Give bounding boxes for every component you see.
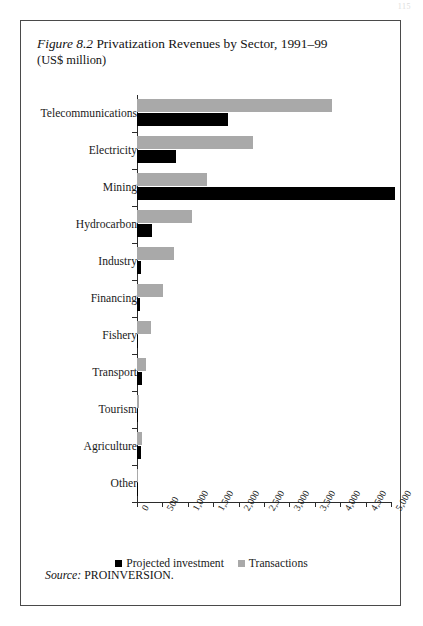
value-tick-label: 5,000	[393, 488, 413, 512]
value-tick	[213, 502, 214, 507]
bar-projected-investment-financing	[137, 298, 140, 311]
category-label-electricity: Electricity	[21, 145, 137, 157]
value-tick	[315, 502, 316, 507]
bar-transactions-other	[137, 469, 138, 482]
category-label-telecommunications: Telecommunications	[21, 108, 137, 120]
category-tick	[132, 169, 137, 170]
value-tick	[162, 502, 163, 507]
category-tick	[132, 465, 137, 466]
value-axis-tick-labels: 05001,0001,5002,0002,5003,0003,5004,0004…	[137, 507, 401, 553]
figure-frame: Figure 8.2 Privatization Revenues by Sec…	[20, 20, 401, 606]
bar-projected-investment-telecommunications	[137, 113, 228, 126]
bar-projected-investment-hydrocarbon	[137, 224, 152, 237]
category-tick	[132, 391, 137, 392]
bar-transactions-electricity	[137, 136, 253, 149]
source-note: Source: PROINVERSION.	[45, 568, 174, 583]
source-keyword: Source:	[45, 568, 81, 582]
bar-projected-investment-tourism	[137, 409, 138, 422]
category-label-hydrocarbon: Hydrocarbon	[21, 219, 137, 231]
bar-projected-investment-agriculture	[137, 446, 141, 459]
category-label-fishery: Fishery	[21, 330, 137, 342]
category-tick	[132, 317, 137, 318]
bar-transactions-financing	[137, 284, 163, 297]
bar-projected-investment-electricity	[137, 150, 176, 163]
category-tick	[132, 280, 137, 281]
legend-swatch-icon	[115, 560, 122, 567]
page-number: 115	[398, 2, 411, 11]
bar-projected-investment-transport	[137, 372, 142, 385]
category-tick	[132, 206, 137, 207]
bar-transactions-fishery	[137, 321, 151, 334]
bar-transactions-tourism	[137, 395, 139, 408]
value-tick-label: 0	[139, 503, 151, 513]
figure-title: Privatization Revenues by Sector, 1991–9…	[96, 36, 327, 51]
figure-caption: Figure 8.2 Privatization Revenues by Sec…	[37, 35, 385, 69]
category-tick	[132, 132, 137, 133]
bar-projected-investment-industry	[137, 261, 141, 274]
value-tick	[188, 502, 189, 507]
figure-label: Figure 8.2	[37, 36, 93, 51]
chart-plot-area: TelecommunicationsElectricityMiningHydro…	[21, 95, 402, 525]
bars-layer	[137, 95, 391, 502]
legend-swatch-icon	[238, 560, 245, 567]
legend-item-transactions: Transactions	[238, 557, 308, 570]
bar-projected-investment-mining	[137, 187, 395, 200]
bar-projected-investment-other	[137, 483, 138, 496]
bar-transactions-agriculture	[137, 432, 142, 445]
category-label-agriculture: Agriculture	[21, 441, 137, 453]
value-tick	[264, 502, 265, 507]
category-tick	[132, 354, 137, 355]
value-tick	[391, 502, 392, 507]
bar-transactions-mining	[137, 173, 207, 186]
value-tick	[366, 502, 367, 507]
value-tick	[289, 502, 290, 507]
value-tick	[340, 502, 341, 507]
bar-transactions-industry	[137, 247, 174, 260]
bar-transactions-hydrocarbon	[137, 210, 192, 223]
category-label-other: Other	[21, 478, 137, 490]
bar-transactions-telecommunications	[137, 99, 332, 112]
category-label-financing: Financing	[21, 293, 137, 305]
source-text: PROINVERSION.	[84, 568, 173, 582]
value-tick	[239, 502, 240, 507]
category-label-transport: Transport	[21, 367, 137, 379]
category-label-mining: Mining	[21, 182, 137, 194]
category-label-tourism: Tourism	[21, 404, 137, 416]
category-label-industry: Industry	[21, 256, 137, 268]
bar-projected-investment-fishery	[137, 335, 138, 348]
value-tick	[137, 502, 138, 507]
figure-units: (US$ million)	[37, 52, 385, 68]
bar-transactions-transport	[137, 358, 146, 371]
legend-label: Transactions	[249, 557, 308, 570]
category-tick	[132, 243, 137, 244]
category-axis-labels: TelecommunicationsElectricityMiningHydro…	[21, 95, 137, 502]
category-tick	[132, 428, 137, 429]
